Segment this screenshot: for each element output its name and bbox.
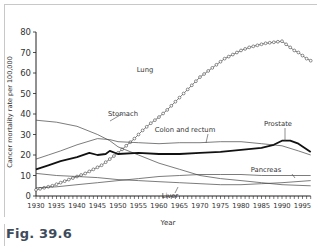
series-line-colon-and-rectum bbox=[36, 139, 311, 160]
data-point bbox=[67, 178, 70, 181]
annotation-leader-pancreas bbox=[292, 174, 295, 178]
data-point bbox=[264, 42, 267, 45]
data-point bbox=[43, 186, 46, 189]
data-point bbox=[203, 73, 206, 76]
annotation-prostate: Prostate bbox=[264, 120, 292, 128]
data-point bbox=[59, 181, 62, 184]
data-point bbox=[100, 164, 103, 167]
data-point bbox=[125, 144, 128, 147]
data-point bbox=[219, 60, 222, 63]
data-point bbox=[231, 53, 234, 56]
x-tick-label: 1940 bbox=[68, 202, 85, 210]
data-point bbox=[186, 88, 189, 91]
x-tick-label: 1935 bbox=[48, 202, 65, 210]
data-point bbox=[305, 57, 308, 60]
data-point bbox=[240, 49, 243, 52]
series-colon-and-rectum bbox=[36, 139, 311, 160]
figure-label: Fig. 39.6 bbox=[6, 226, 72, 241]
y-axis-label: Cancer mortality rate per 100,000 bbox=[6, 56, 14, 168]
x-tick-label: 1995 bbox=[294, 202, 311, 210]
y-tick-label: 80 bbox=[20, 27, 31, 37]
data-point bbox=[47, 185, 50, 188]
data-point bbox=[149, 122, 152, 125]
data-point bbox=[55, 183, 58, 186]
data-point bbox=[301, 54, 304, 57]
x-tick-label: 1990 bbox=[273, 202, 290, 210]
y-tick-label: 40 bbox=[20, 109, 31, 119]
data-point bbox=[227, 55, 230, 58]
data-point bbox=[182, 92, 185, 95]
data-point bbox=[170, 104, 173, 107]
data-point bbox=[88, 170, 91, 173]
chart: 0102030405060708019301935194019451950195… bbox=[0, 0, 317, 246]
data-point bbox=[133, 137, 136, 140]
x-tick-label: 1955 bbox=[130, 202, 147, 210]
data-point bbox=[236, 51, 239, 54]
figure-label-bar bbox=[4, 224, 5, 246]
y-tick-label: 0 bbox=[26, 191, 31, 201]
y-tick-label: 30 bbox=[20, 130, 31, 140]
x-tick-label: 1985 bbox=[253, 202, 270, 210]
data-point bbox=[84, 172, 87, 175]
x-tick-label: 1980 bbox=[232, 202, 249, 210]
data-point bbox=[285, 43, 288, 46]
annotation-colon-and-rectum: Colon and rectum bbox=[155, 126, 216, 134]
x-tick-label: 1930 bbox=[27, 202, 44, 210]
data-point bbox=[268, 41, 271, 44]
data-point bbox=[178, 96, 181, 99]
data-point bbox=[199, 76, 202, 79]
data-point bbox=[215, 63, 218, 66]
data-point bbox=[211, 66, 214, 69]
data-point bbox=[166, 109, 169, 112]
data-point bbox=[277, 40, 280, 43]
data-point bbox=[256, 44, 259, 47]
data-point bbox=[281, 40, 284, 43]
data-point bbox=[244, 48, 247, 51]
data-point bbox=[162, 112, 165, 115]
data-point bbox=[113, 155, 116, 158]
data-point bbox=[272, 41, 275, 44]
y-tick-label: 60 bbox=[20, 68, 31, 78]
x-tick-label: 1975 bbox=[212, 202, 229, 210]
annotation-liver: Liver bbox=[162, 192, 179, 200]
x-axis-label: Year bbox=[160, 219, 176, 227]
data-point bbox=[223, 57, 226, 60]
data-point bbox=[137, 133, 140, 136]
annotation-leader-colon-and-rectum bbox=[206, 134, 208, 143]
data-point bbox=[96, 166, 99, 169]
data-point bbox=[289, 46, 292, 49]
data-point bbox=[72, 177, 75, 180]
data-point bbox=[190, 84, 193, 87]
data-point bbox=[309, 59, 312, 62]
data-point bbox=[293, 49, 296, 52]
data-point bbox=[35, 188, 38, 191]
data-point bbox=[174, 100, 177, 103]
data-point bbox=[195, 80, 198, 83]
data-point bbox=[141, 129, 144, 132]
data-point bbox=[252, 45, 255, 48]
annotation-lung: Lung bbox=[137, 66, 154, 74]
x-tick-label: 1965 bbox=[171, 202, 188, 210]
data-point bbox=[154, 119, 157, 122]
y-tick-label: 20 bbox=[20, 150, 31, 160]
x-tick-label: 1950 bbox=[109, 202, 126, 210]
x-tick-label: 1970 bbox=[191, 202, 208, 210]
data-point bbox=[145, 125, 148, 128]
data-point bbox=[207, 70, 210, 73]
x-tick-label: 1945 bbox=[89, 202, 106, 210]
x-tick-label: 1960 bbox=[150, 202, 167, 210]
annotation-stomach: Stomach bbox=[108, 110, 138, 118]
y-tick-label: 50 bbox=[20, 89, 31, 99]
data-point bbox=[158, 116, 161, 119]
annotation-pancreas: Pancreas bbox=[251, 166, 282, 174]
data-point bbox=[108, 158, 111, 161]
data-point bbox=[80, 174, 83, 177]
data-point bbox=[104, 161, 107, 164]
y-tick-label: 70 bbox=[20, 48, 31, 58]
annotations: LungStomachColon and rectumProstatePancr… bbox=[108, 66, 295, 200]
data-point bbox=[260, 43, 263, 46]
y-tick-label: 10 bbox=[20, 171, 31, 181]
data-point bbox=[297, 51, 300, 54]
data-point bbox=[63, 180, 66, 183]
data-point bbox=[92, 168, 95, 171]
